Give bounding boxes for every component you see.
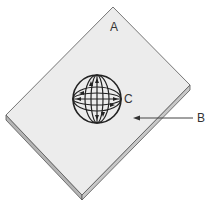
- plate-top-surface: [6, 7, 190, 195]
- label-a: A: [110, 20, 118, 34]
- plate-diagram: [0, 0, 210, 207]
- label-c: C: [124, 92, 133, 106]
- label-b: B: [197, 111, 205, 125]
